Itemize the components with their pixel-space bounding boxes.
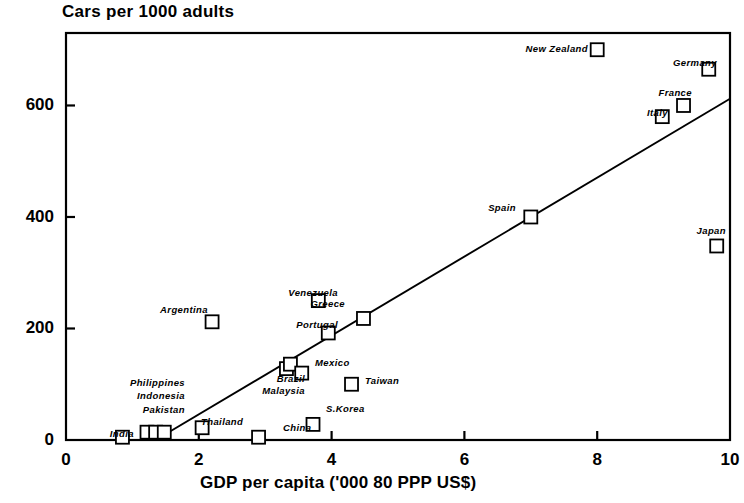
regression-line bbox=[156, 99, 730, 440]
trend-line-layer bbox=[156, 99, 730, 440]
data-point-label: Brazil bbox=[277, 373, 305, 384]
data-point-marker[interactable] bbox=[524, 210, 537, 223]
chart-title: Cars per 1000 adults bbox=[62, 2, 234, 22]
data-point-label: Indonesia bbox=[137, 390, 185, 401]
x-tick-label: 8 bbox=[579, 450, 615, 470]
data-point-label: Venezuela bbox=[288, 287, 338, 298]
data-point-label: Portugal bbox=[296, 319, 338, 330]
data-point-marker[interactable] bbox=[252, 431, 265, 444]
x-tick-label: 2 bbox=[181, 450, 217, 470]
x-tick-label: 10 bbox=[712, 450, 744, 470]
data-point-label: France bbox=[658, 87, 692, 98]
data-point-label: India bbox=[110, 428, 134, 439]
data-points-layer bbox=[116, 43, 723, 443]
x-axis-label: GDP per capita ('000 80 PPP US$) bbox=[200, 473, 476, 493]
data-point-label: China bbox=[283, 422, 311, 433]
data-point-label: Malaysia bbox=[262, 385, 305, 396]
y-tick-label: 0 bbox=[8, 430, 54, 450]
y-tick-label: 600 bbox=[8, 95, 54, 115]
data-point-label: Pakistan bbox=[143, 404, 185, 415]
data-point-label: Argentina bbox=[160, 304, 208, 315]
data-point-label: Greece bbox=[310, 298, 345, 309]
data-point-marker[interactable] bbox=[357, 312, 370, 325]
data-point-marker[interactable] bbox=[710, 239, 723, 252]
data-point-label: Japan bbox=[697, 225, 726, 236]
y-tick-label: 200 bbox=[8, 318, 54, 338]
data-point-marker[interactable] bbox=[677, 99, 690, 112]
data-point-marker[interactable] bbox=[345, 378, 358, 391]
data-point-marker[interactable] bbox=[158, 426, 171, 439]
x-tick-label: 4 bbox=[314, 450, 350, 470]
data-point-label: Italy bbox=[647, 107, 668, 118]
data-point-label: Germany bbox=[673, 57, 717, 68]
data-point-label: New Zealand bbox=[526, 43, 588, 54]
data-point-marker[interactable] bbox=[591, 43, 604, 56]
data-point-label: Mexico bbox=[315, 357, 350, 368]
data-point-label: Taiwan bbox=[365, 375, 399, 386]
data-point-label: Philippines bbox=[130, 377, 185, 388]
data-point-label: Thailand bbox=[201, 416, 243, 427]
data-point-label: Spain bbox=[488, 202, 516, 213]
x-tick-label: 0 bbox=[48, 450, 84, 470]
y-tick-label: 400 bbox=[8, 207, 54, 227]
data-point-label: S.Korea bbox=[326, 403, 365, 414]
chart-figure: Cars per 1000 adults 0200400600 0246810 … bbox=[0, 0, 744, 503]
x-tick-label: 6 bbox=[446, 450, 482, 470]
data-point-marker[interactable] bbox=[206, 315, 219, 328]
